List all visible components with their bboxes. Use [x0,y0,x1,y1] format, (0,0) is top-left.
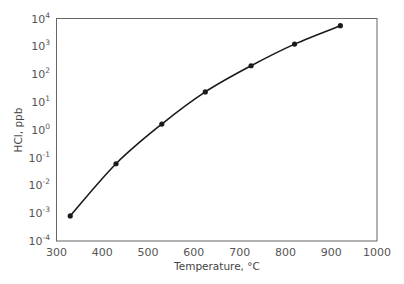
y-axis-ticks: 10410310210110010-110-210-310-4 [29,11,51,249]
data-point-marker [159,121,164,126]
data-point-marker [113,161,118,166]
x-tick-label: 1000 [363,246,391,259]
y-tick-label: 10-2 [29,177,51,192]
x-tick-label: 400 [92,246,113,259]
y-tick-label: 103 [31,38,50,53]
data-markers [68,23,343,218]
y-tick-label: 10-3 [29,205,51,220]
data-point-marker [292,42,297,47]
x-axis-ticks: 3004005006007008009001000 [46,246,391,259]
x-tick-label: 700 [229,246,250,259]
x-tick-label: 500 [138,246,159,259]
data-point-marker [68,213,73,218]
y-tick-label: 102 [31,66,50,81]
x-tick-label: 300 [46,246,67,259]
data-curve [70,26,340,216]
x-tick-label: 900 [321,246,342,259]
y-tick-label: 100 [31,122,50,137]
y-tick-label: 10-1 [29,150,51,165]
y-tick-label: 101 [31,94,50,109]
data-point-marker [248,63,253,68]
x-tick-label: 600 [183,246,204,259]
chart: 10410310210110010-110-210-310-4 30040050… [0,0,404,284]
y-axis-label: HCl, ppb [12,107,24,152]
data-point-marker [203,89,208,94]
x-tick-label: 800 [275,246,296,259]
plot-frame [57,19,378,242]
data-point-marker [338,23,343,28]
y-tick-label: 104 [31,11,50,26]
x-axis-label: Temperature, °C [173,260,260,272]
